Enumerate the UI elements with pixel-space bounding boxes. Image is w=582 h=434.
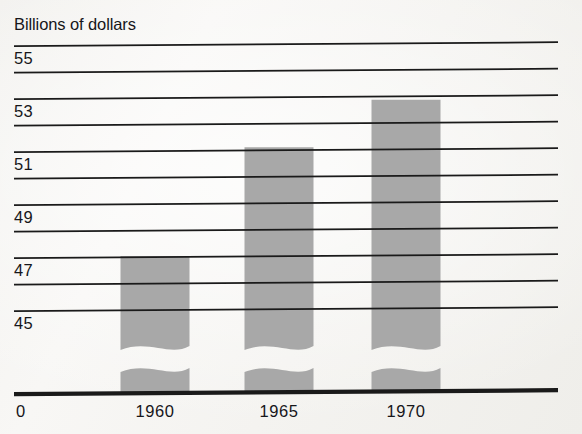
bar-1965 — [245, 147, 314, 392]
bars-layer — [121, 100, 441, 392]
gridline-55 — [14, 42, 558, 46]
bar-body — [121, 256, 190, 350]
bar-1970 — [372, 100, 441, 392]
bar-body — [372, 100, 441, 350]
gridline-52 — [14, 122, 558, 126]
y-tick-label-53: 53 — [14, 102, 33, 121]
x-tick-label-1970: 1970 — [361, 402, 451, 421]
y-tick-label-51: 51 — [14, 155, 33, 174]
x-tick-label-1960: 1960 — [110, 402, 200, 421]
y-tick-label-47: 47 — [14, 261, 33, 280]
y-tick-label-55: 55 — [14, 49, 33, 68]
y-tick-label-49: 49 — [14, 208, 33, 227]
bar-1960 — [121, 256, 190, 392]
chart-title: Billions of dollars — [14, 15, 136, 34]
gridline-54 — [14, 69, 558, 73]
x-tick-label-1965: 1965 — [234, 402, 324, 421]
axis-baseline — [14, 390, 558, 394]
bar-stub-below-axis-break — [372, 368, 441, 392]
bar-chart-plot — [0, 0, 582, 434]
bar-stub-below-axis-break — [245, 368, 314, 392]
axis-origin-label: 0 — [16, 402, 25, 421]
bar-stub-below-axis-break — [121, 368, 190, 392]
y-tick-label-45: 45 — [14, 314, 33, 333]
chart-figure: Billions of dollars 555351494745 1960196… — [0, 0, 582, 434]
baseline-rule — [14, 390, 558, 394]
gridline-53 — [14, 95, 558, 99]
